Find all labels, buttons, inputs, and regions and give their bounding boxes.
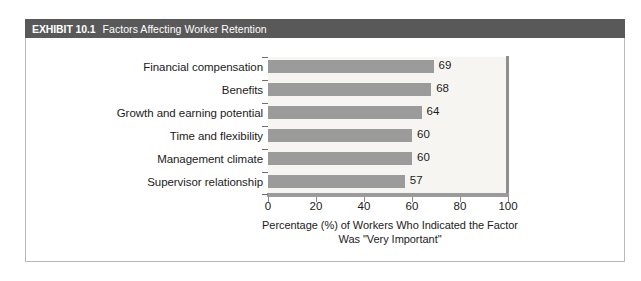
exhibit-banner: EXHIBIT 10.1 Factors Affecting Worker Re… <box>25 19 625 38</box>
exhibit-number-label: EXHIBIT 10.1 <box>32 23 96 35</box>
plot-panel <box>268 57 509 196</box>
exhibit-title: Factors Affecting Worker Retention <box>103 23 267 35</box>
